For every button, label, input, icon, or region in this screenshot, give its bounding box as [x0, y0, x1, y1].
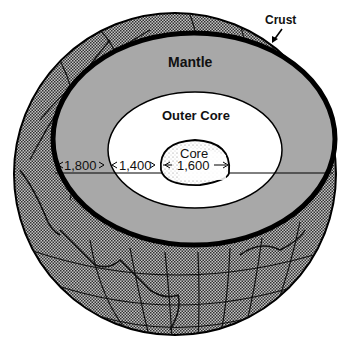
outer-core-label: Outer Core [162, 108, 230, 123]
crust-pointer-arrow [272, 29, 282, 43]
crust-label: Crust [265, 13, 296, 27]
mantle-thickness: 1,800 [64, 158, 97, 173]
mantle-label: Mantle [168, 54, 213, 70]
outer-core-thickness: 1,400 [119, 158, 152, 173]
earth-diagram: Mantle Outer Core Core 1,800 1,400 1,600… [0, 0, 348, 345]
inner-core-thickness: 1,600 [177, 158, 210, 173]
